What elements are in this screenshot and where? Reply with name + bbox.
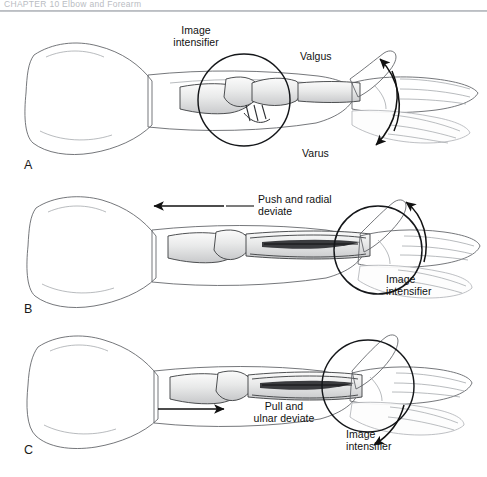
header-rule	[0, 10, 487, 12]
label-image-intensifier-c: Image intensifier	[346, 429, 426, 453]
label-valgus: Valgus	[300, 51, 360, 63]
radial-deviation-arrow-b	[406, 202, 426, 262]
panel-a-artwork	[0, 13, 487, 178]
running-head-text: CHAPTER 10 Elbow and Forearm	[4, 0, 141, 9]
hand-a	[350, 51, 478, 113]
panel-b-artwork	[0, 178, 487, 323]
upper-arm-c	[27, 336, 158, 449]
label-varus: Varus	[302, 148, 362, 160]
elbow-bones-a	[180, 77, 360, 122]
hand-a-ghost	[352, 110, 470, 143]
label-push-radial-deviate: Push and radial deviate	[258, 194, 368, 218]
label-image-intensifier-a: Image intensifier	[156, 25, 236, 49]
upper-arm-a	[25, 43, 152, 155]
upper-arm-b	[27, 197, 156, 308]
panel-c: Pull and ulnar deviate Image intensifier…	[0, 323, 487, 477]
label-pull-ulnar-deviate: Pull and ulnar deviate	[232, 401, 336, 425]
panel-c-artwork	[0, 323, 487, 477]
figure-root: CHAPTER 10 Elbow and Forearm	[0, 0, 487, 477]
panel-letter-a: A	[24, 158, 33, 172]
panel-a: Image intensifier Valgus Varus A	[0, 13, 487, 178]
label-image-intensifier-b: Image intensifier	[386, 274, 466, 298]
page-running-header: CHAPTER 10 Elbow and Forearm	[0, 0, 487, 13]
forearm-bones-c	[170, 371, 362, 404]
panel-letter-c: C	[24, 443, 33, 457]
panel-b: Push and radial deviate Image intensifie…	[0, 178, 487, 323]
forearm-bones-b	[168, 230, 370, 263]
panel-letter-b: B	[24, 302, 33, 316]
